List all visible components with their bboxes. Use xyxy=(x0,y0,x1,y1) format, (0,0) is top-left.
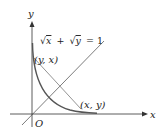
equation-text: √x + √y = 1 xyxy=(40,35,103,46)
y-axis-arrow-icon xyxy=(30,21,35,27)
equation-label: √x + √y = 1 xyxy=(40,35,103,46)
point-lower-label: (x, y) xyxy=(80,99,106,110)
diagram-canvas: y x O √x + √y = 1 (y, x) (x, y) xyxy=(0,0,157,139)
x-axis-label: x xyxy=(150,109,156,120)
y-axis-label: y xyxy=(27,8,34,19)
x-axis-arrow-icon xyxy=(142,112,148,117)
chord-line xyxy=(34,58,81,109)
point-upper-label: (y, x) xyxy=(34,54,58,65)
origin-label: O xyxy=(35,118,43,129)
